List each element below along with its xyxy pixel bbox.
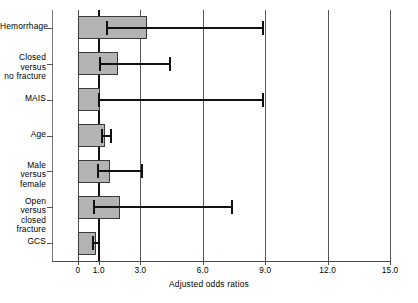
error-bar-cap-low bbox=[99, 57, 101, 71]
error-bar-cap-low bbox=[97, 164, 99, 178]
error-bar-cap-high bbox=[141, 164, 143, 178]
error-bar-cap-high bbox=[98, 236, 100, 250]
error-bar-line bbox=[98, 170, 143, 172]
chart-figure: 01.03.06.09.012.015.0 HemorrhageClosed v… bbox=[0, 0, 418, 303]
error-bar-cap-high bbox=[231, 200, 233, 214]
error-bar-cap-low bbox=[101, 129, 103, 143]
x-axis-title: Adjusted odds ratios bbox=[0, 279, 418, 289]
error-bar-cap-high bbox=[262, 93, 264, 107]
error-bar-cap-low bbox=[106, 21, 108, 35]
bar bbox=[78, 88, 100, 111]
error-bar-cap-high bbox=[169, 57, 171, 71]
plot-area bbox=[0, 0, 418, 303]
error-bar-cap-high bbox=[110, 129, 112, 143]
error-bar-cap-low bbox=[92, 236, 94, 250]
error-bar-cap-low bbox=[98, 93, 100, 107]
error-bar-line bbox=[99, 99, 263, 101]
error-bar-cap-high bbox=[262, 21, 264, 35]
error-bar-line bbox=[94, 206, 232, 208]
error-bar-line bbox=[107, 27, 263, 29]
error-bar-cap-low bbox=[93, 200, 95, 214]
error-bar-line bbox=[100, 63, 170, 65]
